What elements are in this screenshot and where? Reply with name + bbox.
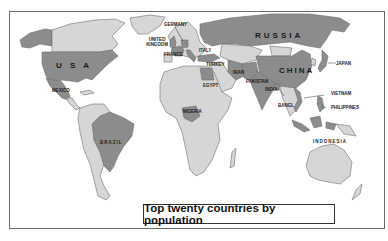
label-india: INDIA bbox=[265, 88, 277, 93]
central-asia-shape bbox=[220, 44, 262, 64]
label-united-kingdom: UNITED KINGDOM bbox=[146, 38, 168, 47]
label-egypt: EGYPT bbox=[203, 84, 218, 89]
alaska-shape bbox=[20, 29, 52, 48]
greenland-shape bbox=[130, 15, 165, 34]
label-turkey: TURKEY bbox=[206, 63, 225, 68]
label-brazil: BRAZIL bbox=[100, 141, 123, 146]
label-nigeria: NIGERIA bbox=[183, 110, 202, 115]
label-mexico: MEXICO bbox=[52, 89, 70, 94]
label-japan: JAPAN bbox=[336, 62, 351, 67]
label-italy: ITALY bbox=[199, 49, 211, 54]
map-title: Top twenty countries by population bbox=[144, 202, 334, 226]
label-vietnam: VIETNAM bbox=[331, 92, 351, 97]
germany-shape bbox=[181, 40, 188, 48]
label-bangladesh: BANGL bbox=[278, 104, 294, 109]
egypt-shape bbox=[200, 68, 214, 80]
label-france: FRANCE bbox=[164, 53, 183, 58]
australia-shape bbox=[306, 144, 352, 184]
japan-shape bbox=[318, 50, 328, 72]
label-usa: U S A bbox=[56, 62, 92, 70]
map-title-box: Top twenty countries by population bbox=[143, 204, 335, 224]
label-philippines: PHILIPPINES bbox=[331, 106, 359, 111]
label-russia: RUSSIA bbox=[255, 32, 303, 40]
label-indonesia: INDONESIA bbox=[313, 140, 347, 145]
turkey-shape bbox=[198, 54, 220, 62]
label-china: CHINA bbox=[279, 67, 314, 75]
philippines-shape bbox=[317, 96, 324, 112]
indonesia-shape bbox=[292, 120, 310, 132]
canada-shape bbox=[52, 19, 125, 52]
label-pakistan: PAKISTAN bbox=[246, 80, 268, 85]
label-germany: GERMANY bbox=[164, 23, 187, 28]
label-iran: IRAN bbox=[233, 71, 244, 76]
